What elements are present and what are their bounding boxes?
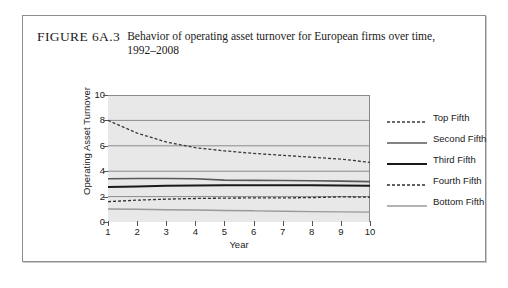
x-tick-mark: [224, 221, 225, 226]
x-tick-label: 7: [274, 226, 292, 237]
x-axis-title: Year: [108, 239, 370, 250]
legend-item: Fourth Fifth: [387, 170, 508, 191]
x-tick-label: 2: [128, 226, 146, 237]
legend-label: Second Fifth: [433, 133, 486, 144]
legend-swatch-icon: [387, 197, 427, 207]
x-tick-mark: [254, 221, 255, 226]
x-tick-label: 1: [99, 226, 117, 237]
x-tick-label: 5: [215, 226, 233, 237]
figure-caption: FIGURE 6A.3 Behavior of operating asset …: [37, 29, 467, 57]
x-tick-label: 6: [245, 226, 263, 237]
series-line: [108, 120, 370, 162]
legend-label: Bottom Fifth: [433, 196, 484, 207]
legend-label: Top Fifth: [433, 112, 469, 123]
plot-area: [108, 95, 370, 222]
x-tick-label: 4: [186, 226, 204, 237]
chart-area: Operating Asset Turnover 0246810 1234567…: [57, 74, 477, 254]
legend-item: Second Fifth: [387, 128, 508, 149]
x-tick-mark: [370, 221, 371, 226]
x-tick-label: 10: [361, 226, 379, 237]
figure-caption-text: Behavior of operating asset turnover for…: [127, 29, 445, 57]
series-line: [108, 185, 370, 187]
x-tick-mark: [312, 221, 313, 226]
legend-item: Bottom Fifth: [387, 191, 508, 212]
x-tick-label: 8: [303, 226, 321, 237]
x-tick-label: 3: [157, 226, 175, 237]
x-tick-label: 9: [332, 226, 350, 237]
legend-swatch-icon: [387, 176, 427, 186]
y-axis-ticks: 0246810: [79, 74, 105, 244]
x-tick-mark: [166, 221, 167, 226]
x-axis-ticks: 12345678910: [108, 226, 370, 240]
plot-lines: [108, 95, 370, 222]
series-line: [108, 178, 370, 181]
legend-label: Fourth Fifth: [433, 175, 482, 186]
legend-swatch-icon: [387, 113, 427, 123]
x-tick-mark: [283, 221, 284, 226]
legend-label: Third Fifth: [433, 154, 476, 165]
series-line: [108, 209, 370, 212]
x-tick-mark: [195, 221, 196, 226]
legend-item: Third Fifth: [387, 149, 508, 170]
legend-item: Top Fifth: [387, 107, 508, 128]
legend-swatch-icon: [387, 155, 427, 165]
x-tick-mark: [137, 221, 138, 226]
chart-legend: Top FifthSecond FifthThird FifthFourth F…: [387, 107, 508, 212]
legend-swatch-icon: [387, 134, 427, 144]
series-line: [108, 197, 370, 202]
figure-root: FIGURE 6A.3 Behavior of operating asset …: [0, 0, 508, 288]
x-tick-mark: [341, 221, 342, 226]
figure-number-label: FIGURE 6A.3: [37, 29, 120, 45]
figure-frame: FIGURE 6A.3 Behavior of operating asset …: [22, 15, 486, 262]
x-tick-mark: [108, 221, 109, 226]
